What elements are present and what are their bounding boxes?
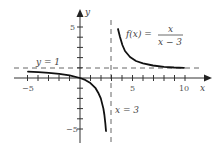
y-axis-label: y xyxy=(84,7,91,17)
y-tick-label: −5 xyxy=(66,125,78,134)
function-denominator: x − 3 xyxy=(158,37,182,47)
curve-left-branch xyxy=(28,72,106,131)
x-tick-label: 10 xyxy=(179,84,189,93)
function-numerator: x xyxy=(168,24,173,34)
x-tick-label: 5 xyxy=(130,84,135,93)
horizontal-asymptote-label: y = 1 xyxy=(35,57,60,67)
x-axis-label: x xyxy=(200,83,205,93)
y-axis-arrow-icon xyxy=(77,9,84,17)
x-axis-arrow-icon xyxy=(204,75,212,82)
rational-function-graph: −5 5 10 5 −5 x y y = 1 x = 3 f(x) = x x … xyxy=(0,0,217,151)
x-tick-label: −5 xyxy=(22,84,34,93)
y-tick-label: 5 xyxy=(70,23,75,32)
vertical-asymptote-label: x = 3 xyxy=(115,105,139,115)
function-label: f(x) = xyxy=(125,29,152,39)
